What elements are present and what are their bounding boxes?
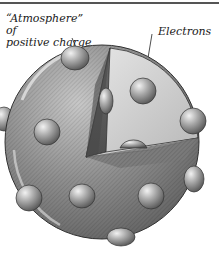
electron — [184, 166, 204, 192]
electron — [69, 184, 95, 208]
electron — [16, 185, 42, 211]
electron — [138, 183, 164, 209]
plum-pudding-atom-illustration — [0, 0, 219, 265]
electron — [130, 78, 156, 104]
electron — [180, 108, 206, 134]
electron — [107, 228, 135, 246]
electron — [34, 119, 60, 145]
electron — [61, 46, 89, 70]
electron — [99, 88, 113, 114]
